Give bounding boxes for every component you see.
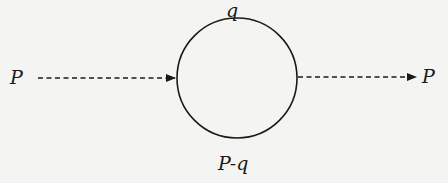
loop-circle — [177, 18, 297, 138]
incoming-momentum-label: P — [9, 66, 24, 88]
top-propagator-label: q — [226, 0, 238, 21]
outgoing-momentum-label: P — [421, 65, 436, 87]
feynman-diagram: P q P P-q — [0, 0, 448, 183]
diagram-canvas: P q P P-q — [0, 0, 448, 183]
bottom-propagator-label: P-q — [217, 152, 248, 174]
